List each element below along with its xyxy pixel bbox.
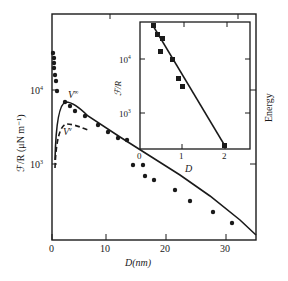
- inset-x-tick-label-0: 0: [137, 151, 142, 161]
- inset-y-axis-label: ℱ/R: [113, 80, 123, 96]
- inset-plot: 104 103 0 1 2 D ℱ/R: [113, 22, 250, 174]
- v-v-label: Vv: [63, 126, 72, 137]
- x-axis-label: D(nm): [124, 257, 152, 269]
- x-tick-label-20: 20: [160, 243, 170, 254]
- v-infinity-label: V∞: [68, 89, 79, 100]
- inset-x-tick-label-1: 1: [179, 151, 184, 161]
- x-tick-label-30: 30: [220, 243, 230, 254]
- inset-x-axis-label: D: [184, 163, 193, 174]
- y-axis-label: ℱ/R (μN m⁻¹): [15, 115, 27, 172]
- inset-frame: [140, 22, 250, 149]
- energy-axis-label: Energy: [263, 93, 274, 122]
- y-tick-label-1e3: 103: [30, 159, 43, 170]
- x-tick-label-10: 10: [100, 243, 110, 254]
- force-distance-chart: 104 103 0 10 20 30 D(nm) ℱ/R (μN m⁻¹) En…: [0, 0, 288, 281]
- inset-y-tick-label-1e3: 103: [119, 108, 131, 119]
- inset-y-tick-label-1e4: 104: [119, 54, 131, 65]
- y-tick-label-1e4: 104: [30, 85, 43, 96]
- x-tick-label-0: 0: [49, 243, 54, 254]
- inset-x-tick-label-2: 2: [222, 151, 227, 161]
